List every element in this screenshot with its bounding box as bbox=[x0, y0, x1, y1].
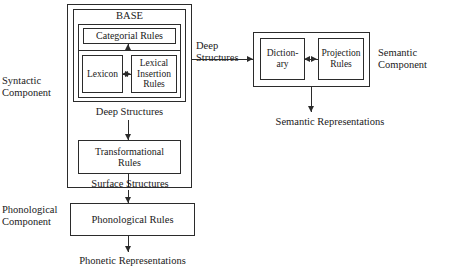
deep-structures-label: Deep Structures bbox=[78, 106, 181, 118]
dictionary-label: Diction- ary bbox=[261, 48, 304, 69]
phono-to-phonetic-arrow bbox=[125, 246, 131, 252]
dictionary-projection-arrow-left bbox=[304, 56, 310, 62]
semantic-to-representations-arrow bbox=[308, 106, 314, 112]
semantic-representations-label: Semantic Representations bbox=[240, 116, 420, 128]
projection-rules-label: Projection Rules bbox=[319, 48, 363, 69]
base-label: BASE bbox=[73, 10, 186, 22]
categorial-rules-label: Categorial Rules bbox=[84, 30, 175, 41]
transformational-rules-box: Transformational Rules bbox=[78, 140, 181, 174]
phonological-rules-label: Phonological Rules bbox=[71, 214, 194, 226]
categorial-rules-box: Categorial Rules bbox=[83, 28, 176, 44]
syntactic-component-label: Syntactic Component bbox=[2, 75, 64, 99]
dictionary-box: Diction- ary bbox=[260, 38, 305, 80]
transformational-rules-label: Transformational Rules bbox=[79, 146, 180, 168]
surface-structures-label: Surface Structures bbox=[60, 178, 200, 190]
linguistic-model-diagram: Syntactic Component BASE Categorial Rule… bbox=[0, 0, 451, 279]
lexical-insertion-rules-label: Lexical Insertion Rules bbox=[132, 58, 176, 90]
dictionary-projection-arrow-right bbox=[311, 56, 317, 62]
lexical-insertion-rules-box: Lexical Insertion Rules bbox=[131, 55, 177, 93]
lexicon-box: Lexicon bbox=[82, 55, 123, 93]
semantic-component-label: Semantic Component bbox=[378, 47, 448, 71]
lexicon-label: Lexicon bbox=[83, 69, 122, 80]
syntactic-to-semantic-line bbox=[192, 59, 253, 60]
phonological-component-label: Phonological Component bbox=[2, 204, 66, 228]
projection-rules-box: Projection Rules bbox=[318, 38, 364, 80]
phonetic-representations-label: Phonetic Representations bbox=[55, 255, 210, 267]
phonological-rules-box: Phonological Rules bbox=[70, 203, 195, 236]
lexicon-lir-arrow-right bbox=[125, 71, 131, 77]
